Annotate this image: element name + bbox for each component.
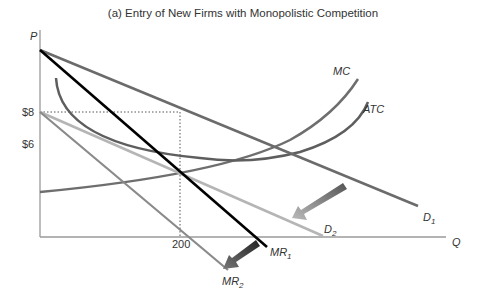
d2-label: D2 — [324, 223, 337, 238]
x-axis-label: Q — [452, 236, 461, 248]
d1-label: D1 — [423, 211, 435, 226]
mr2-label: MR2 — [222, 275, 244, 290]
y-tick-6: $6 — [22, 138, 34, 150]
mc-label: MC — [333, 65, 350, 77]
mc-curve — [40, 79, 358, 192]
demand-shift-arrow — [292, 183, 347, 220]
mr2-curve — [40, 112, 228, 270]
mr-shift-arrow — [223, 240, 260, 269]
mr1-label: MR1 — [270, 246, 292, 261]
atc-label: ATC — [362, 103, 384, 115]
chart-canvas: P Q $8 $6 200 MC ATC D1 D2 MR1 MR2 — [0, 0, 486, 295]
d1-curve — [40, 50, 418, 206]
mr1-curve — [40, 50, 267, 247]
x-tick-200: 200 — [172, 238, 190, 250]
y-tick-8: $8 — [22, 106, 34, 118]
y-axis-label: P — [30, 30, 38, 42]
